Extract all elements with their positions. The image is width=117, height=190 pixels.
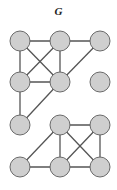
graph-node-b bbox=[50, 31, 70, 51]
graph-node-l bbox=[90, 157, 110, 177]
graph-node-d bbox=[10, 72, 30, 92]
graph-node-i bbox=[90, 115, 110, 135]
graph-node-h bbox=[50, 115, 70, 135]
graph-node-a bbox=[10, 31, 30, 51]
graph-edges bbox=[20, 41, 100, 167]
graph-node-f bbox=[90, 72, 110, 92]
graph-node-c bbox=[90, 31, 110, 51]
graph-node-k bbox=[50, 157, 70, 177]
graph-node-e bbox=[50, 72, 70, 92]
graph-node-g bbox=[10, 115, 30, 135]
graph-node-j bbox=[10, 157, 30, 177]
graph-diagram bbox=[0, 0, 117, 190]
